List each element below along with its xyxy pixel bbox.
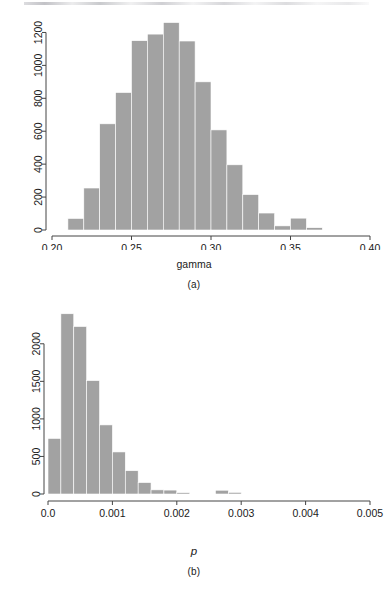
x-axis-tick-label: 0.0 [41, 507, 56, 519]
y-axis-tick-label: 1200 [32, 21, 44, 45]
y-axis-tick-label: 1500 [30, 370, 42, 394]
y-axis-tick-label: 1000 [30, 407, 42, 431]
x-axis-tick-label: 0.002 [164, 507, 190, 519]
histogram-p: 05001000150020000.00.0010.0020.0030.0040… [0, 292, 388, 537]
histogram-bar [306, 228, 322, 230]
histogram-bar [227, 165, 243, 230]
y-axis-tick-label: 200 [32, 188, 44, 206]
histogram-bar [116, 93, 132, 230]
histogram-bar [179, 41, 195, 230]
histogram-bar [100, 124, 116, 230]
histogram-bar [132, 41, 148, 230]
y-axis-tick-label: 400 [32, 155, 44, 173]
histogram-bar [61, 314, 74, 494]
x-axis-tick-label: 0.35 [280, 242, 301, 250]
figure-panel-b: 05001000150020000.00.0010.0020.0030.0040… [0, 292, 388, 589]
x-axis-tick-label: 0.004 [292, 507, 318, 519]
histogram-gamma: 0200400600800100012000.200.250.300.350.4… [0, 0, 388, 250]
histogram-bar [228, 492, 241, 494]
x-axis-tick-label: 0.25 [121, 242, 142, 250]
x-axis-tick-label: 0.20 [42, 242, 63, 250]
panel-caption-a: (a) [0, 279, 388, 290]
panel-caption-b: (b) [0, 566, 388, 577]
x-axis-tick-label: 0.40 [360, 242, 381, 250]
histogram-bar [215, 490, 228, 494]
histogram-bar [84, 188, 100, 230]
histogram-bar [147, 34, 163, 230]
histogram-bar [138, 483, 151, 494]
y-axis-tick-label: 1000 [32, 54, 44, 78]
y-axis-tick-label: 600 [32, 122, 44, 140]
histogram-bar [163, 23, 179, 230]
histogram-bar [243, 195, 259, 230]
histogram-bar [195, 82, 211, 230]
histogram-bar [68, 218, 84, 230]
histogram-bar [125, 471, 138, 494]
figure-panel-a: 0200400600800100012000.200.250.300.350.4… [0, 0, 388, 300]
x-axis-tick-label: 0.005 [357, 507, 383, 519]
x-axis-label-a: gamma [0, 258, 388, 270]
x-axis-tick-label: 0.003 [228, 507, 254, 519]
histogram-bar [112, 452, 125, 494]
histogram-bar [211, 130, 227, 230]
x-axis-tick-label: 0.001 [99, 507, 125, 519]
histogram-bar [177, 493, 190, 494]
y-axis-tick-label: 0 [30, 491, 42, 497]
y-axis-tick-label: 2000 [30, 332, 42, 356]
histogram-bar [48, 438, 61, 494]
histogram-bar [151, 490, 164, 494]
x-axis-label-b: p [0, 545, 388, 557]
y-axis-tick-label: 500 [30, 448, 42, 466]
histogram-bar [74, 327, 87, 494]
y-axis-tick-label: 0 [32, 227, 44, 233]
y-axis-tick-label: 800 [32, 89, 44, 107]
histogram-bar [100, 425, 113, 494]
histogram-bar [87, 381, 100, 494]
x-axis-tick-label: 0.30 [201, 242, 222, 250]
histogram-bar [259, 213, 275, 230]
histogram-bar [275, 226, 291, 230]
histogram-bar [291, 218, 307, 230]
histogram-bar [164, 490, 177, 494]
